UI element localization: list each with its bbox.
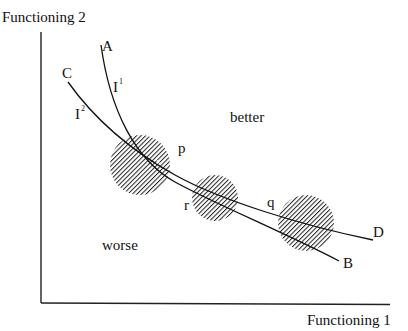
- curve-label-d: D: [373, 224, 384, 240]
- point-label-q: q: [267, 194, 275, 210]
- curve-name-i2-sup: 2: [81, 104, 85, 113]
- point-label-p: p: [178, 140, 186, 156]
- curve-label-c: C: [62, 65, 72, 81]
- capability-set-q: [278, 195, 334, 251]
- curve-name-i1-base: I: [113, 79, 118, 95]
- x-axis-label: Functioning 1: [307, 312, 391, 328]
- point-label-r: r: [184, 197, 189, 213]
- curve-name-i1: I 1: [113, 77, 123, 95]
- curve-name-i1-sup: 1: [119, 77, 123, 86]
- curve-label-b: B: [343, 255, 353, 271]
- region-label-worse: worse: [102, 237, 138, 253]
- region-label-better: better: [230, 109, 264, 125]
- curve-name-i2: I 2: [75, 104, 85, 122]
- capability-set-p: [110, 135, 170, 195]
- capability-set-r: [192, 175, 238, 221]
- curve-label-a: A: [102, 38, 113, 54]
- x-axis: [41, 303, 390, 305]
- point-label-x: x: [156, 156, 161, 166]
- curve-name-i2-base: I: [75, 106, 80, 122]
- capability-diagram: Functioning 2 Functioning 1 A B C D I 1 …: [0, 0, 408, 331]
- y-axis-label: Functioning 2: [2, 9, 86, 25]
